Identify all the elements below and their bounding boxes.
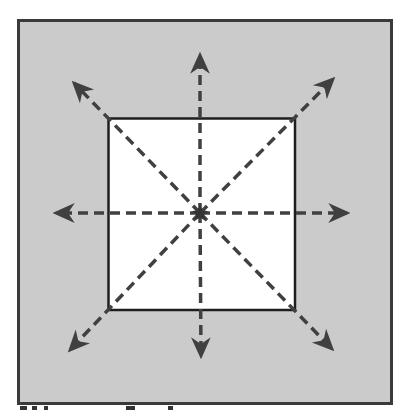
expansion-diagram: [0, 0, 405, 410]
cropped-caption: [18, 404, 218, 410]
arrow-down-icon: [200, 213, 201, 356]
